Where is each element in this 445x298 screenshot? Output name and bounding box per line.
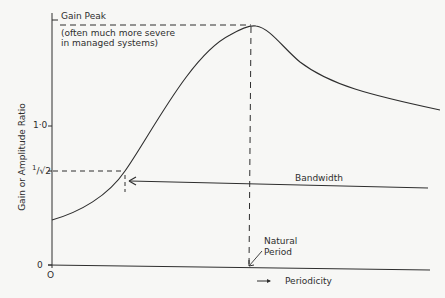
periodicity-arrowhead-icon <box>267 279 271 283</box>
bandwidth-line <box>130 181 428 188</box>
natural-period-dashed-line <box>249 27 251 268</box>
natural-period-label-line2: Period <box>264 247 292 258</box>
x-axis <box>48 265 430 270</box>
y-axis-label: Gain or Amplitude Ratio <box>17 97 27 217</box>
y-tick-label-1: 1·0 <box>33 120 47 131</box>
periodicity-label: Periodicity <box>285 276 332 287</box>
x-origin-label: O <box>47 270 54 281</box>
y-tick-half-denominator: √2 <box>40 166 51 176</box>
bandwidth-label: Bandwidth <box>295 173 343 184</box>
gain-peak-note-line2: in managed systems) <box>61 38 158 49</box>
gain-peak-title: Gain Peak <box>61 11 106 22</box>
y-tick-half-numerator: 1 <box>32 164 36 172</box>
gain-response-curve <box>52 26 440 220</box>
y-tick-label-0: 0 <box>37 260 43 271</box>
y-tick-label-half: 1/√2 <box>32 163 51 177</box>
natural-period-pointer <box>249 251 262 266</box>
natural-period-label-line1: Natural <box>264 236 297 247</box>
